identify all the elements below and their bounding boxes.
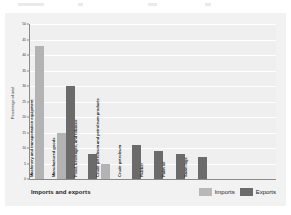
bar-imports bbox=[101, 164, 110, 180]
x-axis-line bbox=[29, 179, 276, 180]
x-axis-title: Imports and exports bbox=[31, 189, 91, 195]
plot-area: Machinery and transportation equipmentMa… bbox=[29, 24, 276, 179]
category-label: Crude petroleum bbox=[117, 145, 122, 177]
bar-imports bbox=[57, 133, 66, 180]
y-tick-label: 25 bbox=[22, 100, 26, 104]
bar-group: Palm oil bbox=[167, 24, 185, 179]
y-tick-label: 45 bbox=[22, 38, 26, 42]
y-axis-title: Percentage of total bbox=[11, 77, 15, 129]
figure: 05101520253035404550 Percentage of total… bbox=[0, 0, 291, 215]
y-tick-label: 20 bbox=[22, 115, 26, 119]
bar-group: Rubber bbox=[145, 24, 163, 179]
bar-imports bbox=[35, 46, 44, 179]
y-tick-label: 15 bbox=[22, 131, 26, 135]
y-tick-label: 5 bbox=[24, 162, 26, 166]
scan-artifact-strip bbox=[0, 0, 291, 12]
legend-label-imports: Imports bbox=[215, 189, 235, 195]
y-tick-label: 35 bbox=[22, 69, 26, 73]
bar-group: Crude petroleum bbox=[123, 24, 141, 179]
category-label: Sawn logs bbox=[183, 157, 188, 177]
y-axis-line bbox=[29, 24, 30, 180]
legend-swatch-exports bbox=[240, 188, 253, 196]
legend-label-exports: Exports bbox=[256, 189, 276, 195]
category-label: Rubber bbox=[139, 163, 144, 177]
chart-panel: 05101520253035404550 Percentage of total… bbox=[5, 13, 286, 206]
y-tick-label: 30 bbox=[22, 84, 26, 88]
y-axis-ticks: 05101520253035404550 bbox=[5, 24, 29, 179]
y-tick-label: 40 bbox=[22, 53, 26, 57]
y-tick-label: 0 bbox=[24, 177, 26, 181]
category-label: Food, beverages, and tobacco bbox=[73, 119, 78, 177]
y-tick-label: 10 bbox=[22, 146, 26, 150]
legend-swatch-imports bbox=[199, 188, 212, 196]
bar-exports bbox=[198, 157, 207, 179]
y-tick-label: 50 bbox=[22, 22, 26, 26]
legend-item-exports: Exports bbox=[240, 188, 276, 196]
category-label: Manufactured goods bbox=[51, 138, 56, 177]
category-label: Palm oil bbox=[161, 162, 166, 177]
category-label: Crude petroleum and petroleum products bbox=[95, 98, 100, 177]
legend-item-imports: Imports bbox=[199, 188, 235, 196]
bar-group: Sawn logs bbox=[189, 24, 207, 179]
chart-legend: Imports Exports bbox=[199, 188, 276, 196]
